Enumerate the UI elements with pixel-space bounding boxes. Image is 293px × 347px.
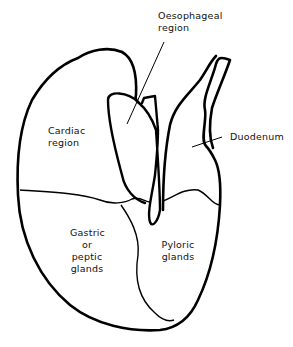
label-line: glands [70,263,104,275]
label-line: Oesophageal [158,10,223,22]
label-line: Gastric [70,227,104,239]
oesophageal-label: Oesophageal region [158,10,223,34]
duodenum-label: Duodenum [230,131,284,143]
cardiac-label: Cardiac region [48,125,85,149]
oesophagus-tube [138,96,160,224]
label-line: Duodenum [230,131,284,142]
pyloric-glands-label: Pyloric glands [160,239,196,263]
division-line-upper [20,190,220,205]
oesophageal-region-shape [108,93,145,203]
gastric-glands-label: Gastric or peptic glands [70,227,104,275]
stomach-diagram [0,0,293,347]
label-line: Pyloric [160,239,196,251]
label-line: glands [160,251,196,263]
label-line: peptic [70,251,104,263]
label-line: region [48,137,85,149]
duodenum-outline [163,56,216,210]
label-line: or [70,239,104,251]
label-line: Cardiac [48,125,85,137]
label-line: region [158,22,223,34]
